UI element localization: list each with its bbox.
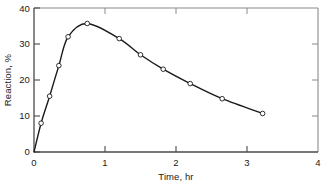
x-tick-label-3: 3 [244, 157, 249, 168]
data-point [57, 63, 62, 68]
x-tick-label-2: 2 [173, 157, 178, 168]
x-tick-label-4: 4 [315, 157, 320, 168]
y-tick-label-20: 20 [19, 74, 30, 85]
data-point [260, 111, 265, 116]
data-point [66, 35, 71, 40]
x-tick-label-0: 0 [31, 157, 36, 168]
data-point [39, 121, 44, 126]
y-tick-label-40: 40 [19, 3, 30, 14]
data-point [117, 36, 122, 41]
y-axis-title: Reaction, % [2, 53, 13, 106]
y-tick-label-10: 10 [19, 110, 30, 121]
data-point [188, 81, 193, 86]
x-tick-label-1: 1 [102, 157, 107, 168]
y-tick-label-0: 0 [25, 146, 30, 157]
y-tick-label-30: 30 [19, 38, 30, 49]
data-point [220, 96, 225, 101]
chart-background [0, 0, 326, 187]
x-axis-title: Time, hr [158, 171, 193, 182]
data-point [161, 67, 166, 72]
reaction-vs-time-chart: 0 10 20 30 40 0 1 2 3 4 Time, hr Reactio… [0, 0, 326, 187]
data-point [85, 21, 90, 26]
data-point [47, 94, 52, 99]
data-point [138, 53, 143, 58]
